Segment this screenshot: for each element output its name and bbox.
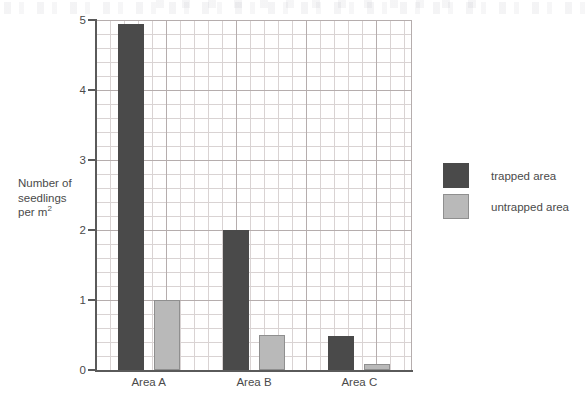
bar-area-c-trapped [328,336,354,370]
y-tick-label: 0 [0,364,97,376]
x-tick-label: Area C [341,376,377,388]
bar-area-a-untrapped [154,300,180,370]
chart-screenshot: 012345 Area AArea BArea C Number of seed… [0,0,585,407]
bar-area-b-trapped [223,230,249,370]
y-tick-label: 3 [0,154,97,166]
bar-area-a-trapped [118,24,144,371]
scan-artifact-secondary [150,0,480,8]
bars-layer [96,20,412,370]
y-axis-title-line-2: seedlings [18,192,67,204]
bar-area-c-untrapped [364,364,390,370]
y-tick-label: 1 [0,294,97,306]
chart-legend: trapped area untrapped area [443,163,569,225]
legend-swatch-trapped [443,163,469,188]
x-tick-label: Area A [131,376,166,388]
scan-artifact [0,2,585,14]
y-tick-label: 4 [0,84,97,96]
legend-swatch-untrapped [443,194,469,219]
legend-label-trapped: trapped area [491,170,556,182]
legend-item-trapped: trapped area [443,163,569,188]
y-axis-title-line-1: Number of [18,177,72,189]
x-tick-label: Area B [236,376,271,388]
y-axis-title: Number of seedlings per m2 [18,176,92,220]
y-tick-label: 2 [0,224,97,236]
y-tick-label: 5 [0,14,97,26]
legend-item-untrapped: untrapped area [443,194,569,219]
legend-label-untrapped: untrapped area [491,201,569,213]
x-axis-line [95,370,413,372]
y-axis-title-line-3: per m [18,206,47,218]
y-axis-title-superscript: 2 [47,204,51,213]
bar-area-b-untrapped [259,335,285,370]
